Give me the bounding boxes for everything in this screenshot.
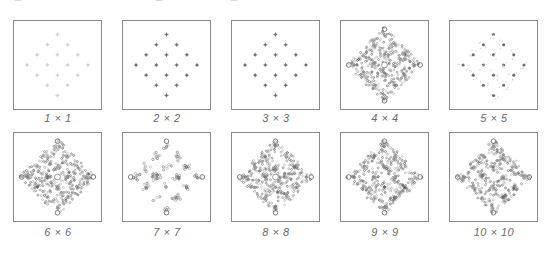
panel-4x4: [340, 20, 429, 110]
pattern-4x4: [341, 21, 428, 109]
panel-label: 3 × 3: [231, 112, 321, 124]
panel-label: 4 × 4: [340, 112, 430, 124]
pattern-1x1: [14, 21, 101, 109]
pattern-6x6: [14, 133, 101, 221]
pattern-9x9: [341, 133, 428, 221]
pattern-2x2: [123, 21, 210, 109]
panel-3x3: [231, 20, 320, 110]
panel-5x5: [449, 20, 538, 110]
panel-2x2: [122, 20, 211, 110]
pattern-7x7: [123, 133, 210, 221]
cropped-caption-remnant: [0, 0, 555, 4]
panel-label: 8 × 8: [231, 226, 321, 238]
panel-label: 1 × 1: [13, 112, 103, 124]
pattern-5x5: [450, 21, 537, 109]
pattern-8x8: [232, 133, 319, 221]
panel-label: 7 × 7: [122, 226, 212, 238]
panel-8x8: [231, 132, 320, 222]
panel-label: 9 × 9: [340, 226, 430, 238]
panel-label: 5 × 5: [449, 112, 539, 124]
panel-6x6: [13, 132, 102, 222]
panel-1x1: [13, 20, 102, 110]
panel-9x9: [340, 132, 429, 222]
panel-label: 6 × 6: [13, 226, 103, 238]
pattern-10x10: [450, 133, 537, 221]
pattern-3x3: [232, 21, 319, 109]
panel-label: 2 × 2: [122, 112, 212, 124]
panel-7x7: [122, 132, 211, 222]
panel-label: 10 × 10: [449, 226, 539, 238]
panel-10x10: [449, 132, 538, 222]
